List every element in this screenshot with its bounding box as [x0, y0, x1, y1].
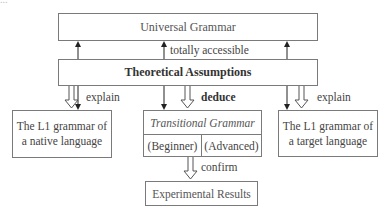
- hollow-arrow-confirm: [184, 157, 197, 179]
- transitional-grammar-title: Transitional Grammar: [144, 111, 261, 135]
- label-explain-left: explain: [86, 92, 120, 104]
- l1-target-line-1: The L1 grammar of: [283, 119, 373, 134]
- hollow-arrow-deduce: [181, 86, 194, 108]
- transitional-grammar-stages: (Beginner) (Advanced): [144, 135, 261, 157]
- universal-grammar-box: Universal Grammar: [58, 13, 318, 41]
- label-totally-accessible: totally accessible: [170, 45, 249, 57]
- experimental-results-box: Experimental Results: [145, 181, 258, 206]
- label-explain-right: explain: [317, 92, 351, 104]
- hollow-arrow-explain-left: [65, 86, 78, 108]
- stage-advanced: (Advanced): [202, 135, 261, 157]
- l1-target-line-2: a target language: [283, 134, 373, 149]
- stage-beginner: (Beginner): [144, 135, 202, 157]
- theoretical-assumptions-box: Theoretical Assumptions: [58, 59, 318, 86]
- hollow-arrow-explain-right: [295, 86, 308, 108]
- l1-native-line-1: The L1 grammar of: [17, 119, 107, 134]
- label-deduce: deduce: [201, 92, 236, 104]
- transitional-grammar-box: Transitional Grammar (Beginner) (Advance…: [143, 110, 262, 157]
- l1-target-language-box: The L1 grammar of a target language: [278, 110, 378, 157]
- label-confirm: confirm: [201, 162, 237, 174]
- l1-native-language-box: The L1 grammar of a native language: [12, 110, 112, 158]
- l1-native-line-2: a native language: [17, 134, 107, 149]
